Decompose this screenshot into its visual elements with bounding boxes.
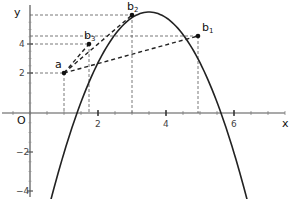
y-axis-label: y — [14, 6, 21, 19]
point-b1 — [196, 34, 201, 39]
x-tick-label: 6 — [231, 119, 237, 129]
point-label-b1: b1 — [202, 21, 213, 35]
axes: 246−4−224 — [2, 5, 285, 197]
y-tick-label: −2 — [16, 147, 29, 157]
parabola-curve — [0, 12, 292, 199]
x-tick-label: 4 — [163, 119, 169, 129]
point-a — [62, 71, 67, 76]
y-tick-label: 4 — [19, 39, 25, 49]
chart: 246−4−224 ab3b2b1 x y O — [0, 0, 293, 199]
y-tick-label: −4 — [16, 186, 30, 196]
secant-lines — [64, 15, 198, 73]
origin-label: O — [17, 114, 26, 127]
points: ab3b2b1 — [55, 0, 213, 75]
point-label-b3: b3 — [84, 29, 95, 43]
point-label-b2: b2 — [127, 0, 138, 14]
secant-line — [64, 44, 89, 73]
x-tick-label: 2 — [95, 119, 101, 129]
point-label-a: a — [55, 58, 62, 71]
x-axis-label: x — [282, 117, 289, 130]
y-tick-label: 2 — [19, 68, 25, 78]
